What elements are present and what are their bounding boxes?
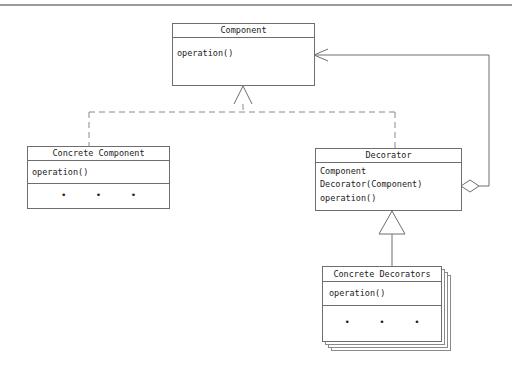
more-ellipsis: • • •: [323, 306, 441, 338]
class-name: Concrete Component: [28, 147, 169, 161]
more-ellipsis: • • •: [28, 184, 169, 206]
class-name: Concrete Decorators: [323, 267, 441, 282]
inheritance-arrow-icon: [234, 86, 252, 104]
class-concrete-component: Concrete Component operation() • • •: [27, 146, 170, 209]
class-name: Component: [173, 24, 314, 38]
method: operation(): [316, 191, 461, 205]
field: Component: [316, 163, 461, 178]
method: operation(): [28, 161, 169, 184]
class-component: Component operation(): [172, 23, 315, 86]
method: operation(): [323, 282, 441, 306]
class-concrete-decorators: Concrete Decorators operation() • • •: [322, 266, 442, 342]
inheritance-triangle-icon: [379, 211, 405, 234]
class-decorator: Decorator Component Decorator(Component)…: [315, 148, 462, 211]
method: operation(): [173, 38, 314, 58]
method: Decorator(Component): [316, 178, 461, 191]
class-name: Decorator: [316, 149, 461, 163]
aggregation-diamond-icon: [461, 180, 479, 192]
